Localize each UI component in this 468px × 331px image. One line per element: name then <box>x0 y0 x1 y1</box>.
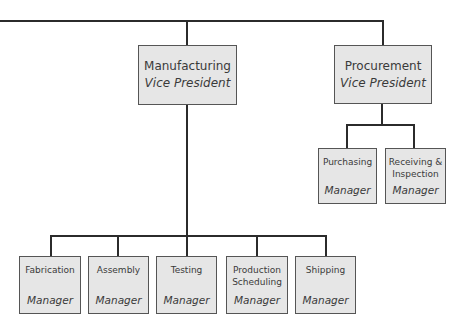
title-label: Manager <box>157 294 216 306</box>
title-label: Manager <box>386 184 445 196</box>
title-label: Manager <box>20 294 80 306</box>
department-label: Testing <box>157 264 216 276</box>
top-horizontal-connector <box>0 20 383 22</box>
assembly-connector <box>117 235 119 256</box>
procurement-down-connector <box>381 103 383 125</box>
manufacturing-vp-connector <box>186 20 188 45</box>
department-label: Production Scheduling <box>227 264 287 288</box>
fabrication-connector <box>50 235 52 256</box>
department-label: Purchasing <box>319 156 376 168</box>
department-label: Manufacturing <box>139 59 236 74</box>
department-label: Fabrication <box>20 264 80 276</box>
department-label: Procurement <box>335 59 431 74</box>
title-label: Manager <box>227 294 287 306</box>
title-label: Vice President <box>139 76 236 91</box>
receiving-inspection-manager-box: Receiving & Inspection Manager <box>385 148 446 204</box>
department-label: Shipping <box>296 264 355 276</box>
shipping-manager-box: Shipping Manager <box>295 256 356 314</box>
manufacturing-vp-box: Manufacturing Vice President <box>138 45 237 105</box>
procurement-horizontal-connector <box>346 124 414 126</box>
purchasing-manager-box: Purchasing Manager <box>318 148 377 204</box>
title-label: Manager <box>296 294 355 306</box>
testing-manager-box: Testing Manager <box>156 256 217 314</box>
title-label: Vice President <box>335 76 431 91</box>
manufacturing-down-connector <box>186 104 188 256</box>
procurement-vp-connector <box>382 20 384 45</box>
purchasing-connector <box>346 124 348 148</box>
title-label: Manager <box>319 184 376 196</box>
procurement-vp-box: Procurement Vice President <box>334 45 432 104</box>
receiving-connector <box>413 124 415 148</box>
manufacturing-horizontal-connector <box>50 235 326 237</box>
production-scheduling-manager-box: Production Scheduling Manager <box>226 256 288 314</box>
title-label: Manager <box>89 294 148 306</box>
department-label: Receiving & Inspection <box>386 156 445 180</box>
assembly-manager-box: Assembly Manager <box>88 256 149 314</box>
shipping-connector <box>325 235 327 256</box>
fabrication-manager-box: Fabrication Manager <box>19 256 81 314</box>
production-scheduling-connector <box>256 235 258 256</box>
department-label: Assembly <box>89 264 148 276</box>
